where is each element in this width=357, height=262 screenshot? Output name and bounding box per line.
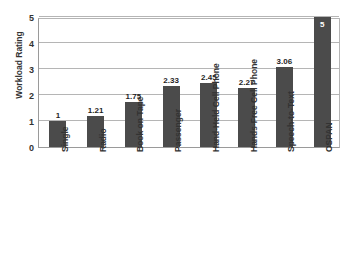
category-label: Speech-to-Text [287,91,296,152]
bar-value-label: 2.33 [151,76,192,85]
y-tick-label: 1 [20,118,34,127]
y-tick-label: 3 [20,66,34,75]
bar-value-label: 2.45 [188,73,229,82]
category-label: Hand-Held Cell Phone [212,63,221,152]
bar-chart: Workload Rating 543210 11.211.752.332.45… [0,0,357,262]
y-tick-label: 2 [20,92,34,101]
category-label: Passenger [174,109,183,152]
x-axis-category-labels: SingleRadioBook on TapePassengerHand-Hel… [38,150,340,260]
category-label: Single [61,126,70,152]
bar-value-label: 3.06 [264,57,305,66]
category-label: OSPAN [325,122,334,152]
bar-value-label: 1.75 [113,92,154,101]
y-tick-label: 5 [20,14,34,23]
bar-value-label: 1 [37,111,78,120]
gridline [39,16,339,17]
category-label: Book on Tape [136,96,145,152]
category-label: Radio [99,128,108,152]
bar-value-label: 2.27 [226,78,267,87]
y-axis-tick-labels: 543210 [18,0,34,262]
bar-value-label: 1.21 [75,106,116,115]
y-tick-label: 4 [20,40,34,49]
y-tick-label: 0 [20,144,34,153]
bar-value-label: 5 [302,20,343,29]
category-label: Hands-Free Cell Phone [250,59,259,152]
